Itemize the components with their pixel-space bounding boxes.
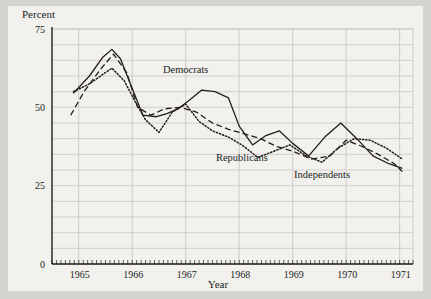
y-tick-label: 25 xyxy=(35,180,45,191)
x-tick-label: 1968 xyxy=(230,269,250,280)
x-tick-label: 1966 xyxy=(123,269,143,280)
chart-panel: 0255075 1965196619671968196919701971 Dem… xyxy=(8,6,423,291)
x-tick-label: 1969 xyxy=(284,269,304,280)
series-annotation-democrats: Democrats xyxy=(163,64,208,75)
series-annotation-independents: Independents xyxy=(294,169,350,180)
x-axis-title: Year xyxy=(208,278,229,290)
chart-figure: 0255075 1965196619671968196919701971 Dem… xyxy=(0,0,431,299)
y-tick-label: 50 xyxy=(35,102,45,113)
y-tick-label: 0 xyxy=(40,259,45,270)
y-axis-title: Percent xyxy=(22,8,55,20)
x-tick-label: 1970 xyxy=(337,269,357,280)
x-tick-label: 1967 xyxy=(177,269,197,280)
x-tick-label: 1965 xyxy=(70,269,90,280)
x-tick-label: 1971 xyxy=(391,269,411,280)
party-identification-line-chart: 0255075 1965196619671968196919701971 Dem… xyxy=(8,6,423,291)
series-annotation-republicans: Republicans xyxy=(216,152,268,163)
y-tick-label: 75 xyxy=(35,24,45,35)
